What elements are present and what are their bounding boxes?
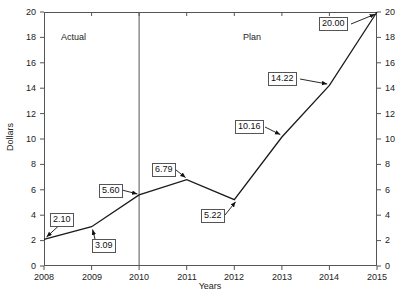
y-tick-left-8: 8 <box>14 159 36 169</box>
x-axis-ticks-bottom <box>44 266 377 270</box>
chart-figure: 0 2 4 6 8 10 12 14 16 18 20 0 2 4 6 8 10… <box>0 0 400 301</box>
y-tick-right-16: 16 <box>385 58 400 68</box>
data-label-2008: 2.10 <box>50 213 74 227</box>
data-label-2012: 5.22 <box>201 209 225 223</box>
y-tick-left-4: 4 <box>14 210 36 220</box>
data-label-2010: 5.60 <box>99 184 123 198</box>
y-tick-left-20: 20 <box>14 7 36 17</box>
x-tick-2008: 2008 <box>24 272 64 282</box>
x-tick-2010: 2010 <box>119 272 159 282</box>
y-tick-left-6: 6 <box>14 185 36 195</box>
data-series-line <box>44 12 377 239</box>
data-label-2013: 10.16 <box>235 120 264 134</box>
data-label-2009: 3.09 <box>92 239 116 253</box>
y-tick-right-20: 20 <box>385 7 400 17</box>
y-axis-title: Dollars <box>5 109 15 165</box>
y-tick-left-14: 14 <box>14 83 36 93</box>
data-label-2011: 6.79 <box>152 163 176 177</box>
y-tick-right-2: 2 <box>385 235 400 245</box>
data-label-2014: 14.22 <box>268 72 297 86</box>
x-tick-2015: 2015 <box>357 272 397 282</box>
y-tick-right-8: 8 <box>385 159 400 169</box>
y-tick-right-18: 18 <box>385 32 400 42</box>
data-label-2015: 20.00 <box>319 17 348 31</box>
x-axis-title: Years <box>190 281 230 291</box>
y-tick-right-12: 12 <box>385 109 400 119</box>
y-axis-ticks-right <box>377 12 381 266</box>
y-tick-left-0: 0 <box>14 261 36 271</box>
y-tick-left-18: 18 <box>14 32 36 42</box>
y-tick-left-2: 2 <box>14 235 36 245</box>
y-tick-right-6: 6 <box>385 185 400 195</box>
y-tick-left-10: 10 <box>14 134 36 144</box>
y-tick-right-4: 4 <box>385 210 400 220</box>
x-axis-ticks-top <box>92 12 330 16</box>
leader-2015 <box>351 14 375 24</box>
region-label-plan: Plan <box>243 32 261 42</box>
leader-2014 <box>300 79 327 84</box>
y-tick-right-0: 0 <box>385 261 400 271</box>
chart-canvas <box>0 0 400 301</box>
y-axis-ticks-left <box>40 12 44 266</box>
leader-2013 <box>265 127 280 135</box>
x-tick-2009: 2009 <box>72 272 112 282</box>
y-tick-right-14: 14 <box>385 83 400 93</box>
x-tick-2014: 2014 <box>309 272 349 282</box>
y-tick-right-10: 10 <box>385 134 400 144</box>
y-tick-left-12: 12 <box>14 109 36 119</box>
region-label-actual: Actual <box>61 32 86 42</box>
x-tick-2013: 2013 <box>262 272 302 282</box>
y-tick-left-16: 16 <box>14 58 36 68</box>
leader-2011 <box>176 170 186 178</box>
leader-2012 <box>225 202 236 215</box>
leader-2010 <box>122 190 137 194</box>
